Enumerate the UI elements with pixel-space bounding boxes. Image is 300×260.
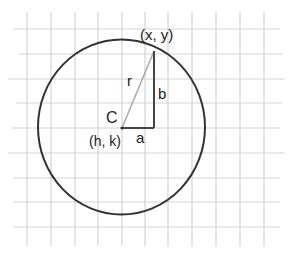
point-label: (x, y) — [140, 27, 173, 42]
diagram-canvas: (x, y) r b C (h, k) a — [0, 0, 300, 260]
vertical-leg-label: b — [158, 86, 166, 101]
radius-line — [122, 51, 154, 128]
center-label: C — [106, 110, 118, 126]
center-point — [120, 126, 123, 129]
horizontal-leg-label: a — [136, 130, 144, 145]
center-coords-label: (h, k) — [89, 134, 121, 148]
radius-label: r — [127, 73, 132, 88]
